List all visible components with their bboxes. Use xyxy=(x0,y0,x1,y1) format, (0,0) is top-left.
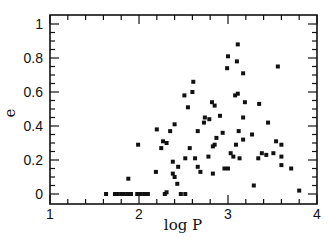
x-tick-label: 3 xyxy=(224,206,232,222)
data-point xyxy=(226,167,230,171)
data-point xyxy=(193,156,197,160)
data-point xyxy=(250,133,254,137)
x-tick-label: 2 xyxy=(135,206,143,222)
data-point xyxy=(173,122,177,126)
data-point xyxy=(135,192,139,196)
data-point xyxy=(266,121,270,125)
data-point xyxy=(104,192,108,196)
data-point xyxy=(171,160,175,164)
data-point xyxy=(256,156,260,160)
data-point xyxy=(241,71,245,75)
data-point xyxy=(165,190,169,194)
data-point xyxy=(159,146,163,150)
data-point xyxy=(136,143,140,147)
data-point xyxy=(207,117,211,121)
data-point xyxy=(276,65,280,69)
data-point xyxy=(142,192,146,196)
x-tick-label: 4 xyxy=(313,206,321,222)
data-point xyxy=(243,100,247,104)
data-point xyxy=(236,92,240,96)
data-point xyxy=(279,155,283,159)
data-point xyxy=(122,192,126,196)
data-point xyxy=(196,165,200,169)
data-point xyxy=(175,182,179,186)
data-point xyxy=(179,192,183,196)
data-point xyxy=(206,155,210,159)
data-point xyxy=(126,177,130,181)
data-point xyxy=(289,167,293,171)
data-point xyxy=(221,131,225,135)
data-point xyxy=(182,93,186,97)
x-tick-label: 1 xyxy=(46,206,54,222)
data-point xyxy=(238,156,242,160)
data-point xyxy=(279,163,283,167)
data-point xyxy=(241,116,245,120)
data-point xyxy=(231,155,235,159)
data-point xyxy=(176,165,180,169)
data-point xyxy=(190,90,194,94)
data-point xyxy=(218,114,222,118)
data-point xyxy=(213,143,217,147)
axis-ticks xyxy=(50,15,317,204)
data-point xyxy=(229,151,233,155)
y-tick-label: 0.8 xyxy=(24,50,44,66)
data-point xyxy=(191,80,195,84)
data-point xyxy=(234,143,238,147)
data-point xyxy=(198,170,202,174)
data-point xyxy=(202,121,206,125)
data-point xyxy=(271,151,275,155)
data-point xyxy=(165,141,169,145)
data-point xyxy=(183,156,187,160)
data-point xyxy=(196,129,200,133)
data-point xyxy=(203,116,207,120)
data-points xyxy=(104,42,301,196)
data-point xyxy=(146,192,150,196)
y-tick-label: 1 xyxy=(35,16,43,32)
data-point xyxy=(264,153,268,157)
data-point xyxy=(236,42,240,46)
x-axis-label: log P xyxy=(164,216,202,234)
data-point xyxy=(188,146,192,150)
data-point xyxy=(226,54,230,58)
y-tick-label: 0.2 xyxy=(24,152,44,168)
data-point xyxy=(154,170,158,174)
data-point xyxy=(241,138,245,142)
data-point xyxy=(211,172,215,176)
data-point xyxy=(155,127,159,131)
tick-labels: 123400.20.40.60.81 xyxy=(24,16,322,222)
data-point xyxy=(168,129,172,133)
scatter-plot: 123400.20.40.60.81 log P e xyxy=(0,0,330,239)
data-point xyxy=(235,59,239,63)
data-point xyxy=(183,192,187,196)
y-tick-label: 0.4 xyxy=(24,118,44,134)
data-point xyxy=(225,66,229,70)
data-point xyxy=(173,175,177,179)
data-point xyxy=(257,102,261,106)
data-point xyxy=(116,192,120,196)
data-point xyxy=(125,192,129,196)
y-tick-label: 0.6 xyxy=(24,84,44,100)
data-point xyxy=(297,189,301,193)
data-point xyxy=(161,139,165,143)
data-point xyxy=(252,184,256,188)
data-point xyxy=(274,139,278,143)
data-point xyxy=(139,192,143,196)
data-point xyxy=(222,167,226,171)
data-point xyxy=(214,136,218,140)
data-point xyxy=(237,129,241,133)
data-point xyxy=(129,192,133,196)
data-point xyxy=(279,143,283,147)
y-tick-label: 0 xyxy=(35,186,43,202)
data-point xyxy=(213,104,217,108)
data-point xyxy=(186,105,190,109)
plot-frame xyxy=(50,15,317,204)
data-point xyxy=(260,151,264,155)
y-axis-label: e xyxy=(1,108,19,117)
